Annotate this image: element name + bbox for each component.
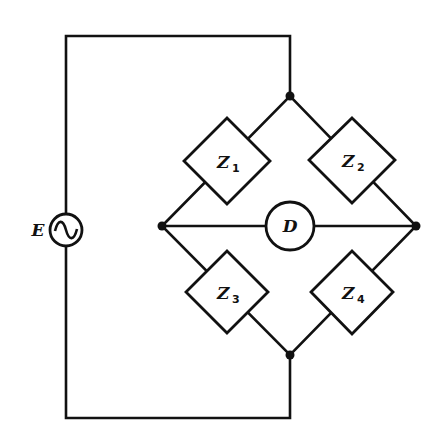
z1-label: Z [216, 152, 230, 172]
junction-left [158, 222, 167, 231]
source-label: E [31, 220, 46, 240]
detector: D [266, 202, 314, 250]
z3-label: Z [216, 283, 230, 303]
z3-subscript: 3 [232, 293, 240, 306]
junction-top [286, 92, 295, 101]
outer-wire-bottom [66, 246, 290, 418]
outer-wire [66, 36, 290, 214]
z4-label: Z [341, 283, 355, 303]
z1-subscript: 1 [232, 162, 240, 175]
ac-source: E [31, 214, 82, 246]
bridge-circuit-diagram: Z 1 Z 2 Z 3 Z 4 D E [0, 0, 444, 437]
z4-subscript: 4 [357, 293, 365, 306]
junction-bottom [286, 351, 295, 360]
junction-right [412, 222, 421, 231]
z2-subscript: 2 [357, 161, 365, 174]
z2-label: Z [341, 151, 355, 171]
detector-label: D [282, 216, 298, 236]
